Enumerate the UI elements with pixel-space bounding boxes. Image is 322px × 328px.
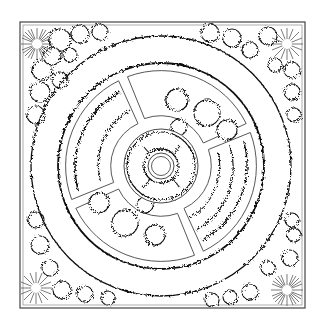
corner-tree-top-left: [21, 28, 53, 60]
corner-tree-bottom-right: [271, 274, 303, 306]
central-feature: [124, 129, 198, 203]
corner-tree-top-right: [271, 28, 303, 60]
corner-tree-bottom-left: [20, 272, 52, 304]
garden-plan: [0, 0, 322, 328]
fountain-icon: [148, 153, 174, 179]
